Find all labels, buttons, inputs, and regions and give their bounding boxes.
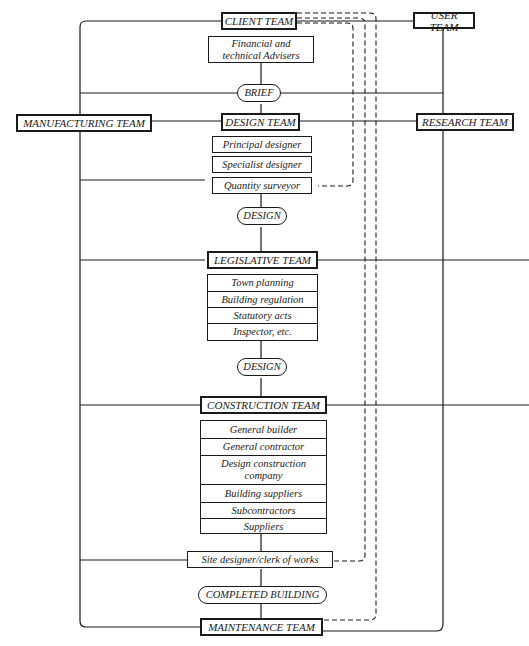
design-team-box: DESIGN TEAM bbox=[221, 113, 300, 131]
construction-item-label: Building suppliers bbox=[225, 488, 302, 500]
legislative-item: Town planning bbox=[208, 275, 317, 292]
construction-item: General contractor bbox=[201, 439, 326, 456]
user-team-label: USER TEAM bbox=[415, 9, 473, 33]
completed-building-stage: COMPLETED BUILDING bbox=[198, 586, 327, 604]
legislative-item-label: Town planning bbox=[231, 277, 293, 289]
legislative-item-label: Building regulation bbox=[221, 294, 303, 306]
maintenance-team-label: MAINTENANCE TEAM bbox=[208, 621, 315, 633]
research-team-label: RESEARCH TEAM bbox=[422, 116, 508, 128]
specialist-designer-label: Specialist designer bbox=[222, 159, 302, 171]
construction-item: Suppliers bbox=[201, 519, 326, 535]
site-designer-label: Site designer/clerk of works bbox=[202, 554, 319, 566]
legislative-team-label: LEGISLATIVE TEAM bbox=[214, 254, 311, 266]
construction-item: Subcontractors bbox=[201, 503, 326, 519]
completed-building-label: COMPLETED BUILDING bbox=[206, 589, 319, 601]
principal-designer-box: Principal designer bbox=[212, 136, 312, 153]
construction-item-label: Subcontractors bbox=[231, 505, 295, 517]
quantity-surveyor-label: Quantity surveyor bbox=[224, 180, 300, 192]
legislative-item-label: Statutory acts bbox=[233, 310, 291, 322]
design-team-label: DESIGN TEAM bbox=[225, 116, 296, 128]
legislative-item-label: Inspector, etc. bbox=[233, 326, 292, 338]
construction-item-label: General contractor bbox=[223, 441, 304, 453]
construction-item: Building suppliers bbox=[201, 485, 326, 503]
research-team-box: RESEARCH TEAM bbox=[416, 113, 514, 131]
construction-team-label: CONSTRUCTION TEAM bbox=[207, 399, 320, 411]
construction-item: General builder bbox=[201, 421, 326, 439]
specialist-designer-box: Specialist designer bbox=[212, 156, 312, 173]
design-stage-2-label: DESIGN bbox=[243, 361, 280, 373]
construction-item-label: Design construction company bbox=[217, 458, 310, 482]
legislative-item: Building regulation bbox=[208, 292, 317, 308]
construction-item: Design construction company bbox=[201, 456, 326, 485]
manufacturing-team-box: MANUFACTURING TEAM bbox=[16, 114, 152, 132]
construction-item-label: General builder bbox=[230, 424, 297, 436]
brief-stage: BRIEF bbox=[237, 84, 281, 102]
brief-label: BRIEF bbox=[244, 87, 273, 99]
client-team-box: CLIENT TEAM bbox=[221, 12, 297, 30]
maintenance-team-box: MAINTENANCE TEAM bbox=[200, 618, 323, 636]
legislative-team-box: LEGISLATIVE TEAM bbox=[207, 251, 318, 269]
legislative-items-list: Town planning Building regulation Statut… bbox=[207, 274, 318, 341]
design-stage-2: DESIGN bbox=[237, 358, 287, 376]
user-team-box: USER TEAM bbox=[413, 12, 475, 29]
advisers-box: Financial and technical Advisers bbox=[208, 36, 314, 63]
quantity-surveyor-box: Quantity surveyor bbox=[212, 177, 312, 194]
design-stage-1: DESIGN bbox=[237, 207, 287, 225]
principal-designer-label: Principal designer bbox=[223, 139, 301, 151]
construction-item-label: Suppliers bbox=[244, 521, 284, 533]
legislative-item: Inspector, etc. bbox=[208, 324, 317, 340]
advisers-label: Financial and technical Advisers bbox=[215, 38, 307, 62]
legislative-item: Statutory acts bbox=[208, 308, 317, 324]
client-team-label: CLIENT TEAM bbox=[225, 15, 294, 27]
construction-team-box: CONSTRUCTION TEAM bbox=[200, 396, 327, 414]
manufacturing-team-label: MANUFACTURING TEAM bbox=[23, 117, 145, 129]
design-stage-1-label: DESIGN bbox=[243, 210, 280, 222]
site-designer-box: Site designer/clerk of works bbox=[187, 551, 333, 568]
construction-items-list: General builder General contractor Desig… bbox=[200, 420, 327, 534]
